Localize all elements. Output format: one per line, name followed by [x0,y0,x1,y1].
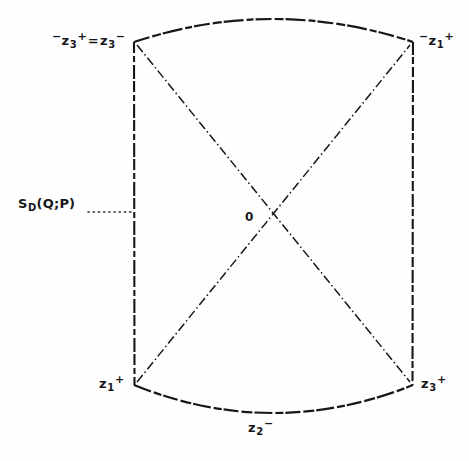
label-top-right-prefix: − [419,30,428,43]
label-bottom-right-base: z [421,376,429,391]
label-top-left-superscript2: − [115,30,125,43]
bottom-arc-edge [134,385,413,413]
label-top-left-subscript: 3 [69,39,77,50]
label-sd-arguments: (Q;P) [37,196,76,211]
label-bottom-arc-apex: z2− [248,418,273,437]
label-top-right-vertex: −z1+ [419,31,454,50]
label-bottom-left-base: z [99,376,107,391]
label-bottom-middle-superscript: − [263,417,273,430]
right-side-edge [413,42,414,385]
diagram-svg [0,0,469,461]
label-top-left-superscript: + [77,30,87,43]
label-origin-point: 0 [245,211,254,223]
label-top-left-prefix: − [52,30,61,43]
label-bottom-right-vertex: z3+ [421,374,446,393]
left-side-edge [134,42,135,385]
label-side-annotation: SD(Q;P) [18,197,75,213]
label-top-right-subscript: 1 [436,39,444,50]
label-top-right-superscript: + [444,30,454,43]
top-arc-edge [134,19,413,42]
label-top-left-equals: = [87,33,100,48]
label-bottom-left-vertex: z1+ [99,374,124,393]
label-bottom-middle-base: z [248,420,256,435]
label-top-left-vertex: −z3+=z3− [52,31,125,50]
label-bottom-left-superscript: + [114,373,124,386]
label-sd-subscript: D [28,202,37,213]
label-origin-text: 0 [245,210,254,224]
label-top-left-base2: z [100,33,108,48]
label-sd-base: S [18,196,28,211]
figure-canvas: −z3+=z3− −z1+ z1+ z3+ z2− 0 SD(Q;P) [0,0,469,461]
label-bottom-right-superscript: + [436,373,446,386]
